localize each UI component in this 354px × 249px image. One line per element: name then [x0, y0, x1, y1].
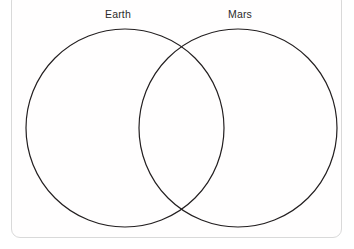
venn-circle-earth[interactable]	[26, 29, 224, 227]
venn-label-mars: Mars	[225, 8, 255, 20]
venn-diagram-page: Earth Mars	[0, 0, 354, 249]
venn-circle-mars[interactable]	[139, 29, 337, 227]
venn-label-earth: Earth	[103, 8, 133, 20]
venn-diagram-canvas	[0, 0, 354, 249]
